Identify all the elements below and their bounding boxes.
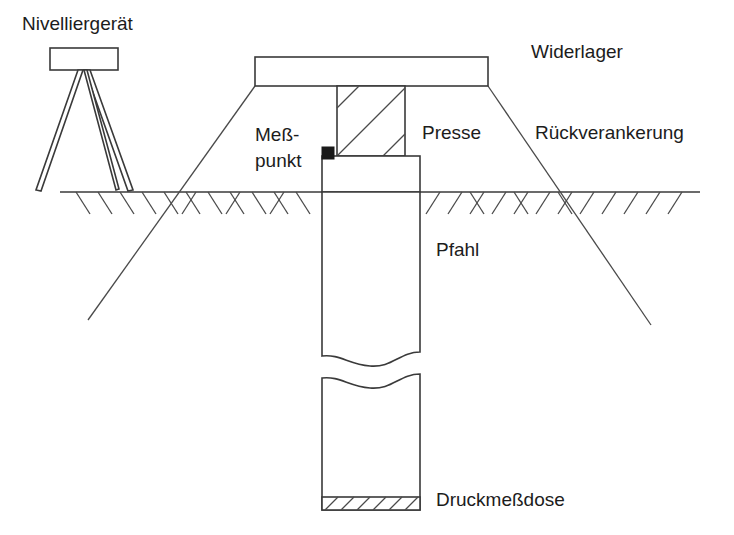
pile-shaft-lower xyxy=(322,374,420,510)
pile-head xyxy=(322,156,420,192)
tripod-leg-center xyxy=(84,70,119,190)
leveling-instrument-group xyxy=(36,48,133,191)
label-messpunkt-line2: punkt xyxy=(255,150,302,171)
measuring-point-marker xyxy=(322,147,334,159)
pile-load-test-diagram: Nivelliergerät Widerlager Rückverankerun… xyxy=(0,0,734,535)
ground-hatch-left xyxy=(76,192,310,214)
diagram-canvas: Nivelliergerät Widerlager Rückverankerun… xyxy=(0,0,734,535)
label-pfahl: Pfahl xyxy=(436,239,479,260)
ground-hatch-right xyxy=(426,192,682,214)
press-group xyxy=(337,86,405,156)
label-nivelliergeraet: Nivelliergerät xyxy=(22,13,134,34)
abutment-beam xyxy=(255,57,488,86)
label-messpunkt-line1: Meß- xyxy=(255,124,299,145)
pile-shaft-upper xyxy=(322,192,420,366)
label-rueckverankerung: Rückverankerung xyxy=(535,122,684,143)
label-widerlager: Widerlager xyxy=(531,41,624,62)
label-druckmessdose: Druckmeßdose xyxy=(436,489,565,510)
label-presse: Presse xyxy=(422,122,481,143)
anchor-rod-left xyxy=(88,86,255,320)
pile-group xyxy=(322,156,420,510)
leveling-instrument-body xyxy=(50,48,118,70)
pressure-cell-group xyxy=(322,497,420,510)
tripod-leg-left xyxy=(36,70,83,191)
